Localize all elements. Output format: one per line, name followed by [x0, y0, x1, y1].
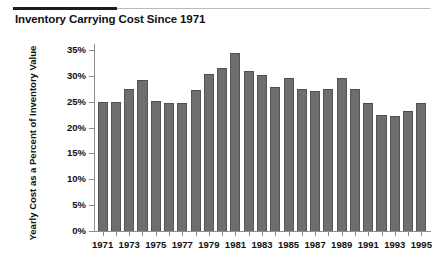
x-axis-tick — [116, 232, 117, 236]
bar — [403, 111, 413, 231]
bar — [310, 91, 320, 231]
x-axis-tick — [129, 232, 130, 236]
x-axis-tick — [328, 232, 329, 236]
y-axis-tick-label: 20% — [52, 123, 86, 133]
x-axis-tick-label: 1975 — [145, 239, 166, 250]
x-axis-tick-label: 1985 — [278, 239, 299, 250]
y-axis-line — [94, 44, 95, 232]
x-axis-tick — [355, 232, 356, 236]
y-axis-tick — [89, 153, 94, 154]
bar — [244, 71, 254, 231]
bar — [270, 87, 280, 231]
x-axis-tick — [209, 232, 210, 236]
x-axis-tick — [302, 232, 303, 236]
x-axis-tick-label: 1983 — [251, 239, 272, 250]
x-axis-tick — [249, 232, 250, 236]
x-axis-tick — [421, 232, 422, 236]
x-axis-tick — [156, 232, 157, 236]
y-axis-tick-label: 0% — [52, 226, 86, 236]
x-axis-tick — [222, 232, 223, 236]
x-axis-tick — [289, 232, 290, 236]
bar — [363, 103, 373, 231]
title-rule-light — [117, 8, 430, 9]
x-axis-tick — [103, 232, 104, 236]
bar — [323, 89, 333, 231]
x-axis-tick — [182, 232, 183, 236]
y-axis-title: Yearly Cost as a Percent of Inventory Va… — [27, 51, 38, 241]
x-axis-tick-label: 1981 — [225, 239, 246, 250]
x-axis-tick-label: 1979 — [198, 239, 219, 250]
bar — [416, 103, 426, 231]
x-axis-tick — [196, 232, 197, 236]
x-axis-tick — [142, 232, 143, 236]
x-axis-tick — [342, 232, 343, 236]
bar — [284, 78, 294, 231]
y-axis-tick — [89, 76, 94, 77]
y-axis-tick-label: 25% — [52, 97, 86, 107]
bar — [376, 115, 386, 231]
x-axis-tick-label: 1987 — [305, 239, 326, 250]
x-axis-tick-label: 1991 — [358, 239, 379, 250]
bar — [390, 116, 400, 231]
x-axis-tick-label: 1993 — [384, 239, 405, 250]
y-axis-tick-label: 5% — [52, 200, 86, 210]
x-axis-tick — [315, 232, 316, 236]
bar — [230, 53, 240, 231]
bar — [217, 68, 227, 231]
bar — [257, 75, 267, 231]
x-axis-tick-label: 1995 — [411, 239, 432, 250]
x-axis-tick — [408, 232, 409, 236]
bar — [164, 103, 174, 231]
x-axis-tick — [262, 232, 263, 236]
page-title: Inventory Carrying Cost Since 1971 — [15, 13, 205, 25]
bar — [350, 89, 360, 231]
x-axis-tick-label: 1977 — [172, 239, 193, 250]
bar — [191, 90, 201, 231]
x-axis-tick — [395, 232, 396, 236]
x-axis-tick — [275, 232, 276, 236]
x-axis-tick — [169, 232, 170, 236]
bar — [124, 89, 134, 231]
x-axis-tick — [235, 232, 236, 236]
y-axis-tick-label: 15% — [52, 148, 86, 158]
y-axis-tick — [89, 231, 94, 232]
x-axis-tick — [368, 232, 369, 236]
bar — [98, 102, 108, 231]
y-axis-tick-label: 35% — [52, 45, 86, 55]
chart-figure: Inventory Carrying Cost Since 1971 Yearl… — [0, 0, 439, 277]
bar — [151, 101, 161, 231]
y-axis-labels: 0%5%10%15%20%25%30%35% — [50, 0, 86, 277]
x-axis-tick-label: 1971 — [92, 239, 113, 250]
bar — [111, 102, 121, 231]
x-axis-tick — [382, 232, 383, 236]
plot-area — [96, 50, 428, 231]
y-axis-tick-label: 10% — [52, 174, 86, 184]
y-axis-tick — [89, 102, 94, 103]
y-axis-tick-label: 30% — [52, 71, 86, 81]
bar — [204, 74, 214, 231]
x-axis-tick-label: 1989 — [331, 239, 352, 250]
y-axis-tick — [89, 50, 94, 51]
bar — [297, 89, 307, 231]
bar — [137, 80, 147, 231]
y-axis-tick — [89, 128, 94, 129]
x-axis-tick-label: 1973 — [119, 239, 140, 250]
y-axis-tick — [89, 179, 94, 180]
bar — [177, 103, 187, 231]
y-axis-tick — [89, 205, 94, 206]
bar — [337, 78, 347, 231]
